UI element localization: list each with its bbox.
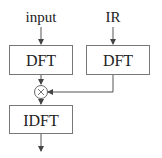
dft-ir-block: DFT	[87, 46, 150, 75]
idft-label: IDFT	[23, 112, 59, 129]
idft-block: IDFT	[10, 106, 73, 134]
diagram-canvas: input IR DFT DFT	[0, 0, 162, 158]
dft-ir-label: DFT	[103, 52, 133, 69]
dft-input-label: DFT	[26, 52, 56, 69]
ir-dft-to-multiply-arrow	[48, 75, 113, 92]
multiply-operator	[35, 86, 48, 99]
dft-input-block: DFT	[10, 46, 73, 75]
convolution-block-diagram: input IR DFT DFT	[0, 0, 162, 158]
input-label: input	[26, 9, 58, 25]
ir-label: IR	[106, 9, 121, 25]
